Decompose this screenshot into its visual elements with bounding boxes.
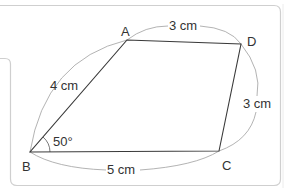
vertex-label-d: D [247, 34, 256, 49]
diagram-canvas: A D B C 4 cm 3 cm 3 cm 5 cm 50° [0, 0, 294, 192]
angle-arc-b [43, 137, 50, 152]
vertex-label-b: B [22, 159, 31, 174]
vertex-label-c: C [222, 158, 231, 173]
vertex-label-a: A [121, 24, 130, 39]
side-label-ad: 3 cm [169, 18, 197, 33]
side-label-bc: 5 cm [107, 162, 135, 177]
side-label-dc: 3 cm [243, 96, 271, 111]
angle-label-b: 50° [53, 134, 73, 149]
side-label-ab: 4 cm [50, 78, 78, 93]
